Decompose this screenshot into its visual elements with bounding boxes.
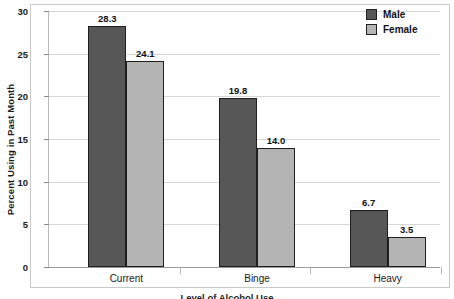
y-axis-tick-label: 10 [6, 176, 28, 187]
x-axis-category-separator [441, 267, 442, 274]
legend-swatch-female-icon [366, 24, 377, 35]
y-axis-tick-label: 5 [6, 219, 28, 230]
bar-heavy-male[interactable] [350, 210, 388, 267]
bar-value-label: 28.3 [98, 13, 117, 24]
bar-binge-female[interactable] [257, 148, 295, 267]
y-axis-tick-mark [44, 11, 49, 12]
bar-heavy-female[interactable] [388, 237, 426, 267]
x-axis-category-label-current: Current [110, 273, 143, 284]
bar-value-label: 24.1 [136, 48, 155, 59]
legend-item-female[interactable]: Female [366, 24, 417, 35]
legend-label: Male [383, 9, 405, 20]
bar-value-label: 6.7 [362, 197, 375, 208]
y-axis-tick-label: 20 [6, 91, 28, 102]
y-axis-tick-labels: 051015202530 [0, 0, 28, 299]
bar-current-male[interactable] [88, 26, 126, 267]
y-axis-tick-mark [44, 54, 49, 55]
bar-value-label: 14.0 [267, 135, 286, 146]
gridline [49, 267, 440, 268]
y-axis-tick-mark [44, 224, 49, 225]
y-axis-tick-label: 25 [6, 48, 28, 59]
y-axis-tick-mark [44, 139, 49, 140]
y-axis-tick-label: 0 [6, 262, 28, 273]
bar-value-label: 19.8 [229, 85, 248, 96]
y-axis-tick-label: 30 [6, 6, 28, 17]
chart-legend: MaleFemale [366, 9, 417, 35]
legend-label: Female [383, 24, 417, 35]
x-axis-category-separator [310, 267, 311, 274]
legend-item-male[interactable]: Male [366, 9, 417, 20]
y-axis-tick-label: 15 [6, 134, 28, 145]
bar-binge-male[interactable] [219, 98, 257, 267]
y-axis-tick-mark [44, 267, 49, 268]
x-axis-category-separator [180, 267, 181, 274]
bar-chart: Percent Using in Past Month 051015202530… [0, 0, 454, 299]
x-axis-category-label-heavy: Heavy [373, 273, 401, 284]
x-axis-title: Level of Alcohol Use [0, 292, 454, 299]
legend-swatch-male-icon [366, 9, 377, 20]
y-axis-tick-mark [44, 182, 49, 183]
bar-current-female[interactable] [126, 61, 164, 267]
plot-area: 28.324.1Current19.814.0Binge6.73.5Heavy [48, 11, 440, 267]
y-axis-tick-mark [44, 96, 49, 97]
bar-value-label: 3.5 [400, 224, 413, 235]
x-axis-category-label-binge: Binge [244, 273, 270, 284]
